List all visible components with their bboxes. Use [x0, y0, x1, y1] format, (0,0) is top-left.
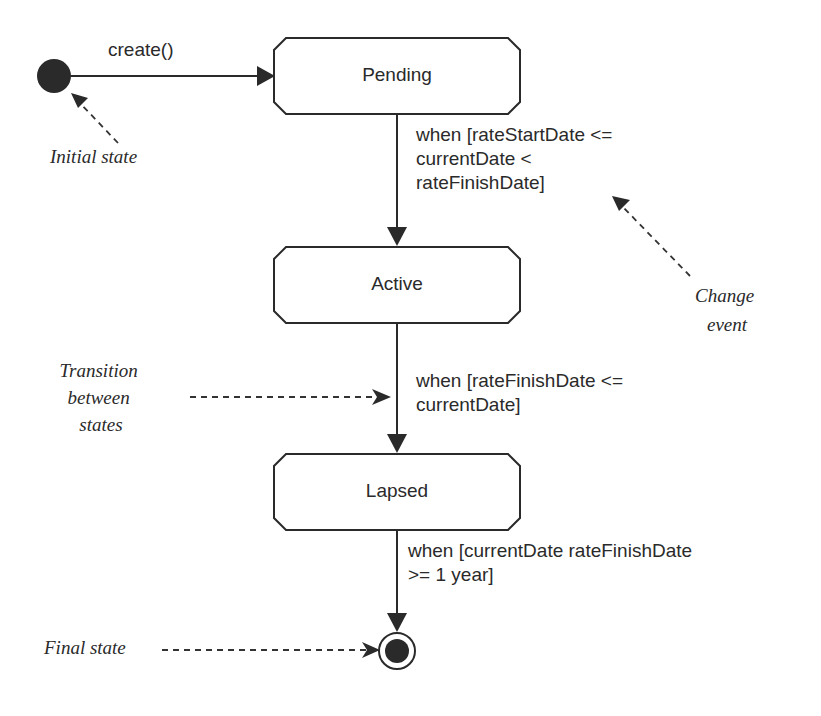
annotation-change-event: Change event [612, 196, 759, 335]
arrowhead-icon [387, 434, 407, 453]
annotation-change-event-label: Change event [695, 285, 759, 335]
dashed-arrowhead-icon [372, 389, 391, 405]
transition-label-create: create() [108, 39, 173, 60]
annotation-initial-state-label: Initial state [49, 146, 137, 167]
state-active: Active [274, 247, 520, 323]
state-machine-diagram: create() Initial state Pending when [rat… [0, 0, 821, 716]
transition-pending-to-active: when [rateStartDate <= currentDate < rat… [387, 114, 618, 246]
arrowhead-icon [387, 227, 407, 246]
state-label-pending: Pending [362, 64, 432, 85]
transition-guard-pending-active: when [rateStartDate <= currentDate < rat… [415, 124, 618, 193]
transition-lapsed-to-final: when [currentDate rateFinishDate >= 1 ye… [387, 530, 697, 632]
transition-guard-active-lapsed: when [rateFinishDate <= currentDate] [415, 370, 628, 415]
transition-create: create() [71, 39, 275, 86]
annotation-transition-label: Transition between states [60, 360, 143, 435]
arrowhead-icon [257, 66, 275, 86]
state-label-active: Active [371, 273, 423, 294]
state-lapsed: Lapsed [274, 454, 520, 530]
state-label-lapsed: Lapsed [366, 480, 428, 501]
annotation-initial-state: Initial state [49, 93, 137, 167]
transition-guard-lapsed-final: when [currentDate rateFinishDate >= 1 ye… [407, 540, 697, 585]
state-pending: Pending [274, 38, 520, 114]
annotation-final-state: Final state [43, 637, 380, 658]
arrowhead-icon [387, 613, 407, 632]
final-state-node [379, 633, 415, 669]
transition-active-to-lapsed: when [rateFinishDate <= currentDate] [387, 323, 628, 453]
annotation-final-state-label: Final state [43, 637, 126, 658]
initial-state-node [37, 59, 71, 93]
dashed-arrowhead-icon [612, 196, 630, 211]
annotation-transition-between-states: Transition between states [60, 360, 391, 435]
dashed-arrowhead-icon [71, 93, 88, 108]
